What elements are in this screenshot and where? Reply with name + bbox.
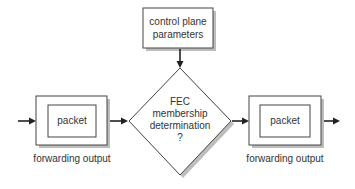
fec-label-line3: determination (150, 120, 211, 131)
fec-label-line1: FEC (170, 96, 190, 107)
right-packet-label: packet (270, 115, 300, 126)
arrow-left-to-fec (110, 118, 128, 125)
control-plane-label-line1: control plane (149, 16, 207, 27)
left-forwarding-box: packet forwarding output (33, 96, 110, 164)
right-caption: forwarding output (246, 153, 323, 164)
left-caption: forwarding output (33, 153, 110, 164)
control-plane-box: control plane parameters (143, 8, 216, 51)
control-plane-box-frame (143, 8, 213, 48)
arrow-control-to-fec (177, 49, 184, 68)
arrow-fec-to-right (232, 118, 249, 125)
control-plane-label-line2: parameters (153, 29, 204, 40)
right-forwarding-box: packet forwarding output (246, 96, 324, 164)
fec-label-line2: membership (152, 108, 207, 119)
fec-label-line4: ? (177, 132, 183, 143)
left-packet-label: packet (57, 115, 87, 126)
diagram-canvas: control plane parameters FEC membership … (0, 0, 355, 189)
fec-decision-diamond: FEC membership determination ? (129, 68, 234, 178)
arrow-right-to-output (324, 118, 340, 125)
arrow-input-to-left (18, 118, 36, 125)
